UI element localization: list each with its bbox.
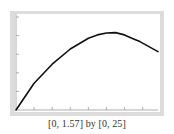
function-curve [16,33,158,110]
graph [0,0,174,134]
axes [16,14,158,110]
window-caption: [0, 1.57] by [0, 25] [0,118,174,129]
